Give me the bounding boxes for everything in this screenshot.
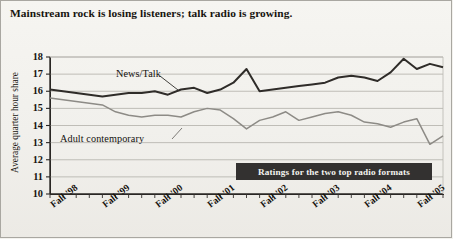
y-tick-label: 18 <box>17 52 43 62</box>
y-tick-label: 15 <box>17 103 43 113</box>
page-title: Mainstream rock is losing listeners; tal… <box>10 7 430 19</box>
y-tick-label: 13 <box>17 138 43 148</box>
caption-bar: Ratings for the two top radio formats <box>236 163 432 180</box>
chart-figure: Mainstream rock is losing listeners; tal… <box>0 0 453 239</box>
y-tick-label: 17 <box>17 69 43 79</box>
y-tick-label: 16 <box>17 86 43 96</box>
y-tick-label: 14 <box>17 121 43 131</box>
caption-text: Ratings for the two top radio formats <box>258 167 410 177</box>
y-tick-label: 10 <box>17 189 43 199</box>
y-tick-label: 12 <box>17 155 43 165</box>
series-label-adult-contemporary: Adult contemporary <box>60 133 144 144</box>
y-tick-label: 11 <box>17 172 43 182</box>
series-label-news-talk: News/Talk <box>116 68 161 79</box>
